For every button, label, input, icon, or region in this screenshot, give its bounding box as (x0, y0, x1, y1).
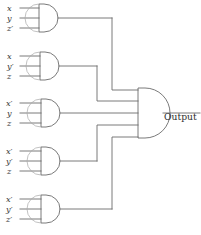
gate-3-input-label-2: z (6, 118, 12, 128)
output-label: Output (164, 111, 197, 122)
gate-1-input-label-2: z′ (6, 23, 13, 33)
gate-4-route-to-or (97, 125, 138, 161)
logic-circuit-diagram: x y z′ x y′ z x′ y z x′ y′ z x′ y′ z′ Ou… (0, 0, 201, 235)
gate-1-input-label-1: y (6, 13, 12, 23)
gate-1 (20, 4, 138, 90)
gate-2-input-label-0: x (7, 51, 12, 61)
gate-5-and-body (41, 195, 60, 223)
gate-4 (20, 125, 138, 175)
gate-1-route-to-or (112, 18, 138, 90)
gate-4-input-label-1: y′ (5, 156, 13, 166)
gate-4-input-label-2: z (6, 166, 12, 176)
circuit-svg-canvas: x y z′ x y′ z x′ y z x′ y′ z x′ y′ z′ Ou… (0, 0, 201, 235)
gate-1-input-label-0: x (7, 3, 12, 13)
gate-3-input-label-0: x′ (6, 98, 13, 108)
gate-4-and-body (41, 147, 60, 175)
gate-4-input-label-0: x′ (6, 146, 13, 156)
gate-2-input-label-1: y′ (6, 61, 14, 71)
gate-5-input-label-0: x′ (6, 194, 13, 204)
gate-5-input-label-2: z′ (5, 214, 12, 224)
gate-3-input-label-1: y (6, 108, 12, 118)
gate-2-input-label-2: z (6, 71, 12, 81)
gate-5-input-label-1: y′ (5, 204, 13, 214)
gate-5-route-to-or (112, 137, 138, 209)
gate-3-and-body (41, 99, 60, 127)
gate-2 (20, 52, 138, 101)
gate-5 (20, 137, 138, 223)
gate-1-and-body (39, 4, 58, 32)
gate-2-and-body (40, 52, 59, 80)
gate-2-route-to-or (97, 66, 138, 101)
gate-3 (20, 99, 138, 127)
